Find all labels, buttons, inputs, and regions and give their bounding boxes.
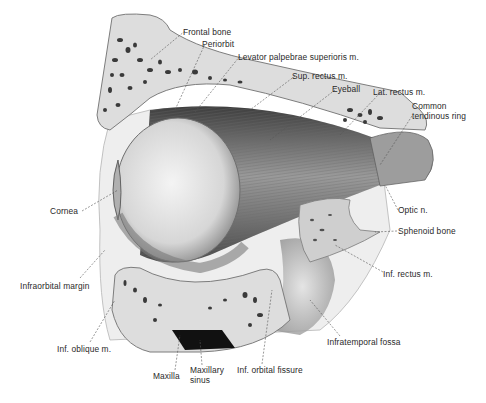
label-optic-nerve: Optic n. <box>398 206 428 215</box>
label-infratemporal-fossa: Infratemporal fossa <box>327 338 401 347</box>
label-maxillary-sinus-line1: Maxillary <box>190 366 224 375</box>
label-maxilla: Maxilla <box>153 372 180 381</box>
label-periorbit: Periorbit <box>202 40 234 49</box>
label-lat-rectus: Lat. rectus m. <box>373 88 425 97</box>
orbit-diagram: Frontal bone Periorbit Levator palpebrae… <box>0 0 486 403</box>
label-levator-palpebrae: Levator palpebrae superioris m. <box>238 53 359 62</box>
label-maxillary-sinus-line2: sinus <box>190 376 210 385</box>
label-sphenoid-bone: Sphenoid bone <box>398 227 456 236</box>
label-common-tendinous-ring-line1: Common <box>412 102 447 111</box>
common-tendinous-ring <box>370 132 433 186</box>
label-eyeball: Eyeball <box>332 85 360 94</box>
label-inf-orbital-fissure: Inf. orbital fissure <box>237 366 303 375</box>
label-inf-rectus: Inf. rectus m. <box>383 270 433 279</box>
label-sup-rectus: Sup. rectus m. <box>292 72 347 81</box>
label-common-tendinous-ring-line2: tendinous ring <box>412 112 466 121</box>
label-frontal-bone: Frontal bone <box>183 28 231 37</box>
label-infraorbital-margin: Infraorbital margin <box>20 282 89 291</box>
label-inf-oblique: Inf. oblique m. <box>57 345 111 354</box>
label-cornea: Cornea <box>50 207 78 216</box>
